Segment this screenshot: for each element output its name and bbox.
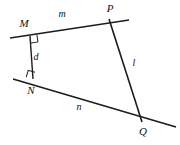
label-line-n: n: [77, 101, 82, 112]
label-line-m: m: [58, 8, 65, 19]
label-point-p: P: [106, 2, 114, 14]
label-segment-d: d: [34, 51, 40, 62]
label-line-l: l: [133, 57, 136, 68]
right-angle-at-m: [30, 35, 38, 43]
line-n: [13, 79, 176, 127]
geometry-diagram: mnldMNPQ: [0, 0, 180, 145]
label-point-q: Q: [139, 125, 147, 137]
right-angle-at-n: [26, 70, 35, 79]
geometry-canvas: mnldMNPQ: [0, 0, 180, 145]
line-l: [109, 19, 142, 122]
label-point-n: N: [26, 84, 35, 96]
label-point-m: M: [18, 17, 29, 29]
